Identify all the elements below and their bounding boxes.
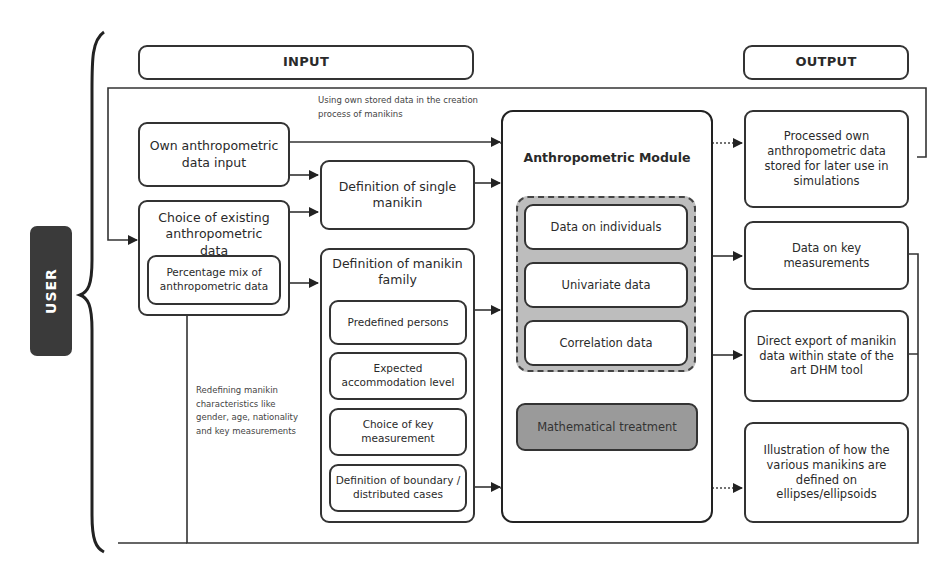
data-on-individuals-label: Data on individuals (551, 220, 662, 235)
output-processed-data-label: Processed own anthropometric data stored… (746, 129, 907, 189)
output-ellipse-illustration-label: Illustration of how the various manikins… (746, 443, 907, 503)
manikin-family-label: Definition of manikin family (332, 256, 463, 289)
existing-data-label: Choice of existing anthropometric data (150, 210, 278, 259)
output-processed-data-box[interactable]: Processed own anthropometric data stored… (744, 110, 909, 208)
mathematical-treatment-label: Mathematical treatment (537, 420, 677, 435)
key-measurement-box[interactable]: Choice of key measurement (329, 408, 467, 456)
module-title: Anthropometric Module (503, 150, 711, 165)
correlation-data-box[interactable]: Correlation data (524, 320, 688, 366)
mathematical-treatment-box[interactable]: Mathematical treatment (516, 403, 698, 451)
top-feedback-note: Using own stored data in the creation pr… (318, 94, 488, 121)
user-badge: USER (30, 226, 72, 356)
output-key-measurements-label: Data on key measurements (746, 241, 907, 271)
single-manikin-box[interactable]: Definition of single manikin (320, 160, 475, 230)
output-dhm-export-box[interactable]: Direct export of manikin data within sta… (744, 310, 909, 402)
output-header-label: OUTPUT (795, 54, 856, 71)
single-manikin-label: Definition of single manikin (322, 179, 473, 212)
user-brace (80, 32, 104, 552)
correlation-data-label: Correlation data (560, 336, 653, 351)
output-ellipse-illustration-box[interactable]: Illustration of how the various manikins… (744, 422, 909, 523)
univariate-data-label: Univariate data (562, 278, 651, 293)
percentage-mix-label: Percentage mix of anthropometric data (149, 266, 279, 293)
predefined-persons-box[interactable]: Predefined persons (329, 300, 467, 345)
output-dhm-export-label: Direct export of manikin data within sta… (746, 334, 907, 379)
manikin-family-box[interactable]: Definition of manikin family Predefined … (320, 248, 475, 523)
data-on-individuals-box[interactable]: Data on individuals (524, 204, 688, 250)
input-header-label: INPUT (283, 54, 329, 71)
accommodation-level-box[interactable]: Expected accommodation level (329, 352, 467, 400)
predefined-persons-label: Predefined persons (347, 316, 448, 330)
boundary-cases-box[interactable]: Definition of boundary / distributed cas… (329, 464, 467, 512)
output-key-measurements-box[interactable]: Data on key measurements (744, 221, 909, 290)
univariate-data-box[interactable]: Univariate data (524, 262, 688, 308)
user-label: USER (43, 268, 59, 314)
boundary-cases-label: Definition of boundary / distributed cas… (331, 474, 465, 501)
bottom-feedback-note: Redefining manikin characteristics like … (196, 384, 306, 438)
accommodation-level-label: Expected accommodation level (331, 362, 465, 389)
key-measurement-label: Choice of key measurement (331, 418, 465, 445)
own-data-input-label: Own anthropometric data input (140, 138, 288, 171)
own-data-input-box[interactable]: Own anthropometric data input (138, 122, 290, 187)
output-header: OUTPUT (743, 45, 909, 80)
existing-data-box[interactable]: Choice of existing anthropometric data P… (138, 200, 290, 316)
input-header: INPUT (138, 45, 474, 80)
percentage-mix-box[interactable]: Percentage mix of anthropometric data (147, 255, 281, 305)
